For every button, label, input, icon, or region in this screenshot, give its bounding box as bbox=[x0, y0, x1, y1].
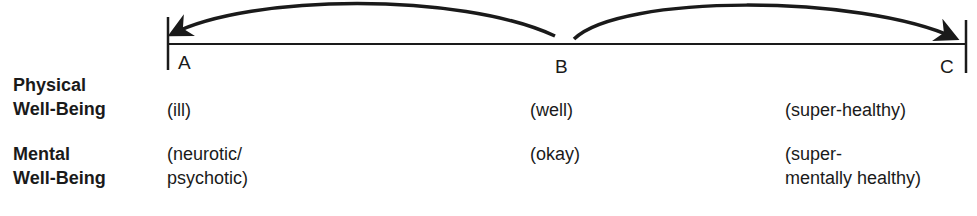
mental-heading-line2: Well-Being bbox=[13, 167, 106, 189]
mental-b-value: (okay) bbox=[530, 143, 580, 165]
physical-heading-line1: Physical bbox=[13, 74, 86, 96]
mental-c-value-line1: (super- bbox=[785, 143, 842, 165]
physical-heading-line2: Well-Being bbox=[13, 98, 106, 120]
mental-a-value-line1: (neurotic/ bbox=[167, 143, 242, 165]
point-a-label: A bbox=[178, 52, 191, 74]
physical-a-value: (ill) bbox=[167, 99, 191, 121]
mental-heading-line1: Mental bbox=[13, 143, 70, 165]
physical-b-value: (well) bbox=[530, 99, 573, 121]
mental-c-value-line2: mentally healthy) bbox=[785, 167, 921, 189]
point-b-label: B bbox=[555, 56, 568, 78]
arrow-b-to-c-icon bbox=[574, 5, 955, 39]
arrow-b-to-a-icon bbox=[172, 4, 555, 37]
point-c-label: C bbox=[940, 56, 954, 78]
physical-c-value: (super-healthy) bbox=[785, 99, 906, 121]
mental-a-value-line2: psychotic) bbox=[167, 167, 248, 189]
